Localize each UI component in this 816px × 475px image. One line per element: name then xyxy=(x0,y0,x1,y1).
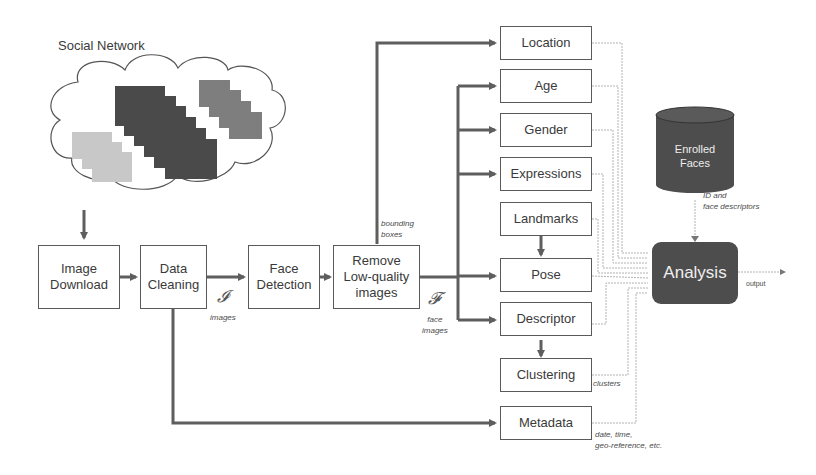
clustering-box[interactable]: Clustering xyxy=(500,358,592,392)
face-images-label: face images xyxy=(422,314,448,336)
remove-low-quality-box[interactable]: Remove Low-quality images xyxy=(333,245,420,309)
image-download-box[interactable]: Image Download xyxy=(38,245,120,309)
enrolled-faces-label: Enrolled Faces xyxy=(656,142,734,170)
metadata-box[interactable]: Metadata xyxy=(500,406,592,440)
age-box[interactable]: Age xyxy=(500,69,592,103)
location-box[interactable]: Location xyxy=(500,26,592,60)
expressions-box[interactable]: Expressions xyxy=(500,157,592,191)
output-label: output xyxy=(746,278,765,289)
face-detection-box[interactable]: Face Detection xyxy=(248,245,320,309)
clusters-label: clusters xyxy=(593,378,621,389)
gender-box[interactable]: Gender xyxy=(500,113,592,147)
landmarks-box[interactable]: Landmarks xyxy=(500,202,592,236)
bounding-boxes-label: bounding boxes xyxy=(381,218,414,240)
images-label: images xyxy=(210,312,236,323)
social-network-title: Social Network xyxy=(58,38,145,53)
cloud-icon xyxy=(51,55,285,190)
images-symbol: 𝓘 xyxy=(217,286,228,306)
pose-box[interactable]: Pose xyxy=(500,258,592,292)
analysis-box[interactable]: Analysis xyxy=(652,242,738,304)
face-images-symbol: 𝓕 xyxy=(428,288,441,308)
descriptor-box[interactable]: Descriptor xyxy=(500,302,592,336)
id-descriptors-label: ID and face descriptors xyxy=(703,190,759,212)
data-cleaning-box[interactable]: Data Cleaning xyxy=(140,245,207,309)
metadata-note: date, time, geo-reference, etc. xyxy=(595,429,662,451)
